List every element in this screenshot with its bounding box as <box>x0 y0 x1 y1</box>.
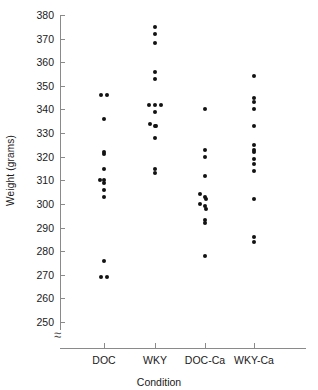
data-point <box>203 204 207 208</box>
x-tick-mark <box>254 343 255 348</box>
y-tick-mark <box>60 180 65 181</box>
data-point <box>102 181 106 185</box>
x-category-label-doc: DOC <box>92 355 115 366</box>
y-axis-label-text: Weight (grams) <box>5 135 16 206</box>
data-point <box>252 100 256 104</box>
data-point <box>203 221 207 225</box>
y-tick-mark <box>60 15 65 16</box>
data-point <box>252 235 256 239</box>
x-category-label-wky: WKY <box>143 355 167 366</box>
data-point <box>99 275 103 279</box>
data-point <box>252 197 256 201</box>
y-tick-label: 260 <box>36 293 54 304</box>
data-point <box>203 254 207 258</box>
data-point <box>252 107 256 111</box>
y-tick-mark <box>60 228 65 229</box>
y-tick-mark <box>60 39 65 40</box>
data-point <box>102 259 106 263</box>
y-tick-label: 280 <box>36 246 54 257</box>
data-point <box>154 124 158 128</box>
y-tick-mark <box>60 62 65 63</box>
data-point <box>203 174 207 178</box>
data-point <box>153 124 157 128</box>
data-point <box>252 74 256 78</box>
y-tick-label: 360 <box>36 57 54 68</box>
y-tick-mark <box>60 298 65 299</box>
y-tick-label: 340 <box>36 104 54 115</box>
data-point <box>153 41 157 45</box>
data-point <box>99 93 103 97</box>
y-tick-label: 330 <box>36 128 54 139</box>
data-point <box>252 157 256 161</box>
data-point <box>102 117 106 121</box>
y-tick-mark <box>60 109 65 110</box>
y-tick-label: 290 <box>36 223 54 234</box>
y-tick-label: 320 <box>36 152 54 163</box>
data-point <box>153 103 157 107</box>
data-point <box>198 202 202 206</box>
x-axis-line <box>60 348 306 349</box>
y-tick-label: 350 <box>36 81 54 92</box>
data-point <box>153 32 157 36</box>
y-axis-tick-labels: 3803703603503403303203103002902802702602… <box>18 0 54 340</box>
data-point <box>204 197 208 201</box>
data-point <box>153 77 157 81</box>
scatter-chart: Weight (grams) 3803703603503403303203103… <box>0 0 318 390</box>
y-tick-mark <box>60 275 65 276</box>
data-point <box>102 178 106 182</box>
data-point <box>203 218 207 222</box>
data-point <box>102 152 106 156</box>
y-axis-label: Weight (grams) <box>0 0 20 340</box>
y-tick-label: 370 <box>36 34 54 45</box>
y-tick-mark <box>60 86 65 87</box>
data-point <box>252 162 256 166</box>
x-tick-mark <box>104 343 105 348</box>
data-point <box>252 143 256 147</box>
y-tick-label: 380 <box>36 10 54 21</box>
x-axis-label: Condition <box>0 376 318 388</box>
data-point <box>159 103 163 107</box>
y-tick-mark <box>60 133 65 134</box>
y-tick-mark <box>60 322 65 323</box>
data-point <box>203 155 207 159</box>
x-tick-mark <box>205 343 206 348</box>
data-point <box>105 275 109 279</box>
y-tick-label: 250 <box>36 317 54 328</box>
data-point <box>252 96 256 100</box>
x-category-label-wky-ca: WKY-Ca <box>234 355 274 366</box>
y-tick-label: 310 <box>36 175 54 186</box>
axis-break-icon: ≈ <box>54 327 61 342</box>
data-point <box>198 192 202 196</box>
data-point <box>105 93 109 97</box>
data-point <box>204 207 208 211</box>
x-category-label-doc-ca: DOC-Ca <box>185 355 225 366</box>
data-point <box>147 103 151 107</box>
data-point <box>252 240 256 244</box>
data-point <box>102 150 106 154</box>
data-point <box>153 167 157 171</box>
data-point <box>252 150 256 154</box>
data-point <box>102 195 106 199</box>
data-point <box>252 148 256 152</box>
y-tick-mark <box>60 204 65 205</box>
x-tick-mark <box>155 343 156 348</box>
data-point <box>148 122 152 126</box>
data-point <box>153 110 157 114</box>
y-tick-label: 270 <box>36 270 54 281</box>
data-point <box>102 167 106 171</box>
y-tick-mark <box>60 157 65 158</box>
data-point <box>203 195 207 199</box>
data-point <box>252 124 256 128</box>
data-point <box>153 25 157 29</box>
data-point <box>98 178 102 182</box>
data-point <box>203 148 207 152</box>
data-point <box>153 171 157 175</box>
y-tick-mark <box>60 251 65 252</box>
y-tick-label: 300 <box>36 199 54 210</box>
data-point <box>153 70 157 74</box>
data-point <box>252 169 256 173</box>
data-point <box>102 188 106 192</box>
data-point <box>203 107 207 111</box>
data-point <box>153 136 157 140</box>
